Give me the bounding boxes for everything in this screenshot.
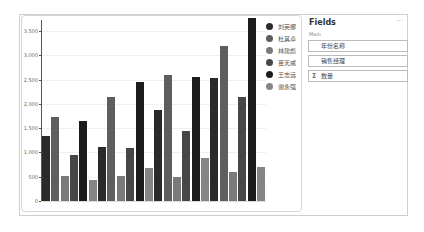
bar[interactable] [79,121,87,201]
gridline [42,80,266,81]
sigma-icon: Σ [312,71,316,81]
bar[interactable] [145,168,153,201]
bar[interactable] [229,172,237,201]
more-options-icon[interactable]: ··· [396,17,403,25]
y-tick-label: 3,000 [8,52,38,58]
y-tick-label: 0 [8,198,38,204]
field-label: 年份名称 [321,41,345,51]
bar[interactable] [117,176,125,201]
field-label: 销售经理 [321,56,345,66]
bar[interactable] [257,167,265,201]
bar[interactable] [210,78,218,201]
legend-label: 杜其卓 [278,34,296,43]
legend-label: 刘英娜 [278,22,296,31]
y-tick-label: 1,500 [8,125,38,131]
legend-item[interactable]: 王志远 [266,68,296,80]
fields-section-label: Main [309,31,321,37]
legend-label: 苗天戚 [278,58,296,67]
legend-label: 王志远 [278,70,296,79]
bar[interactable] [61,176,69,201]
legend-label: 林建彪 [278,46,296,55]
bar[interactable] [107,97,115,201]
y-tick-label: 1,000 [8,149,38,155]
field-well-quantity[interactable]: Σ 数量 [308,70,408,82]
legend-item[interactable]: 苗天戚 [266,56,296,68]
bar[interactable] [89,180,97,201]
legend-dot-icon [266,71,273,78]
bar[interactable] [201,158,209,201]
bar[interactable] [154,110,162,201]
bar[interactable] [164,75,172,201]
legend-item[interactable]: 刘英娜 [266,20,296,32]
y-tick-label: 3,500 [8,28,38,34]
gridline [42,55,266,56]
y-tick-label: 500 [8,174,38,180]
bar[interactable] [192,77,200,201]
fields-panel: Fields ··· Main 年份名称 销售经理 Σ 数量 [303,15,407,215]
gridline [42,31,266,32]
bar[interactable] [42,136,50,201]
legend-dot-icon [266,59,273,66]
bar[interactable] [126,148,134,201]
legend: 刘英娜杜其卓林建彪苗天戚王志远谢永强 [266,20,296,92]
legend-dot-icon [266,83,273,90]
bar[interactable] [182,131,190,201]
field-well-year[interactable]: 年份名称 [308,40,408,52]
y-tick-label: 2,000 [8,101,38,107]
field-well-sales-manager[interactable]: 销售经理 [308,55,408,67]
legend-dot-icon [266,35,273,42]
legend-label: 谢永强 [278,82,296,91]
bar[interactable] [248,18,256,201]
legend-item[interactable]: 林建彪 [266,44,296,56]
x-axis-line [41,201,266,202]
bar[interactable] [173,177,181,201]
bar[interactable] [70,155,78,201]
legend-item[interactable]: 谢永强 [266,80,296,92]
y-tick-label: 2,500 [8,77,38,83]
legend-dot-icon [266,23,273,30]
legend-item[interactable]: 杜其卓 [266,32,296,44]
field-label: 数量 [321,71,333,81]
bar[interactable] [238,97,246,201]
bar[interactable] [220,46,228,201]
bar[interactable] [98,147,106,201]
bar[interactable] [136,82,144,201]
legend-dot-icon [266,47,273,54]
bar[interactable] [51,117,59,201]
gridline [42,104,266,105]
fields-title: Fields [309,18,336,27]
